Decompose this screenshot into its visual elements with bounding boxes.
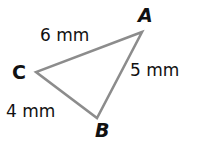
vertex-b-label: B [95, 119, 109, 141]
vertex-a-label: A [136, 4, 153, 26]
side-ab-length-label: 5 mm [130, 60, 179, 80]
side-cb-length-label: 4 mm [6, 101, 55, 121]
side-ca-length-label: 6 mm [40, 25, 89, 45]
vertex-c-label: C [12, 61, 26, 83]
triangle-diagram: 6 mm 5 mm 4 mm A C B [0, 0, 199, 153]
